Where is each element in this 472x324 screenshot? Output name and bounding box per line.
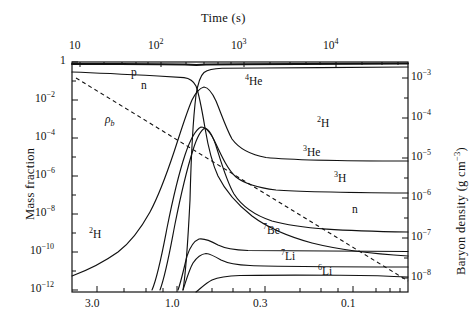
right-tick-label-3: 10−6: [411, 191, 431, 203]
curve-beryllium7: [178, 239, 408, 290]
top-tick-label-3: 104: [323, 40, 339, 52]
bottom-tick-label-3: 0.1: [341, 298, 355, 310]
curve-label-neutron-left: n: [141, 80, 147, 92]
left-tick-label-4: 10−8: [35, 207, 55, 219]
curve-helium3: [152, 127, 408, 290]
right-tick-label-0: 10−3: [411, 71, 431, 83]
left-tick-label-3: 10−6: [35, 169, 55, 181]
right-tick-label-4: 10−7: [411, 231, 431, 243]
right-axis-ticks: [402, 78, 408, 278]
left-tick-label-6: 10−12: [30, 283, 54, 295]
curve-proton: [72, 64, 408, 65]
right-tick-label-2: 10−5: [411, 151, 431, 163]
right-axis-title: Baryon density (g cm−3): [455, 147, 468, 275]
curve-deuterium: [72, 87, 408, 276]
curve-label-tritium: 3H: [334, 173, 346, 185]
bottom-axis-ticks: [97, 286, 400, 292]
curve-label-neutron-right: n: [352, 204, 358, 216]
left-tick-label-1: 10−2: [35, 93, 55, 105]
right-tick-label-1: 10−4: [411, 111, 431, 123]
curve-label-helium-4: 4He: [245, 76, 262, 88]
curve-label-lithium-6: 6Li: [318, 266, 332, 278]
bottom-tick-label-2: 0.3: [253, 298, 267, 310]
left-axis-title: Mass fraction: [24, 148, 37, 220]
top-tick-label-0: 10: [69, 40, 81, 52]
top-axis-title: Time (s): [201, 12, 246, 25]
curve-label-proton: p: [131, 67, 137, 79]
left-tick-label-0: 1: [60, 55, 66, 67]
curve-label-baryon-density: ρb: [105, 114, 115, 126]
curve-helium4: [183, 67, 408, 290]
left-tick-label-5: 10−10: [30, 245, 54, 257]
plot-frame: [72, 62, 408, 292]
top-tick-label-2: 103: [231, 40, 247, 52]
bottom-tick-label-1: 1.0: [165, 298, 179, 310]
curve-lithium7: [183, 254, 408, 291]
curve-label-deuterium-left: 2H: [89, 229, 101, 241]
top-tick-label-1: 102: [148, 40, 164, 52]
bbn-abundance-figure: Time (s) 10 102 103 104 1 10−2 10−4 10−6…: [0, 0, 472, 324]
curve-label-helium-3: 3He: [303, 147, 320, 159]
bottom-tick-label-0: 3.0: [85, 298, 99, 310]
left-axis-ticks: [72, 62, 78, 290]
curve-label-beryllium-7: 7Be: [263, 225, 280, 237]
curve-label-deuterium-right: 2H: [317, 118, 329, 130]
curve-neutron: [72, 72, 408, 256]
left-tick-label-2: 10−4: [35, 131, 55, 143]
curve-label-lithium-7: 7Li: [281, 251, 295, 263]
right-tick-label-5: 10−8: [411, 271, 431, 283]
